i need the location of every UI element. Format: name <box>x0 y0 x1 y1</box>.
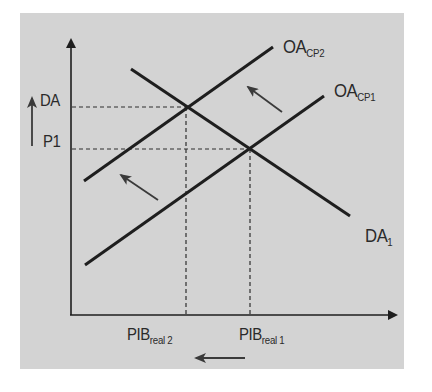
y-label-p1-text: P1 <box>43 132 60 151</box>
curve-label-oa-cp1-sub: CP1 <box>357 91 375 103</box>
x-label-pib-real-1-sub: real 1 <box>262 334 285 346</box>
y-label-p1: P1 <box>43 133 60 150</box>
diagram-stage: DA P1 OACP2 OACP1 DA1 PIBreal 2 PIBreal … <box>0 0 432 392</box>
curve-label-oa-cp2-sub: CP2 <box>306 47 324 59</box>
x-label-pib-real-1-main: PIB <box>239 325 262 344</box>
curve-label-oa-cp2: OACP2 <box>283 37 324 56</box>
curve-label-oa-cp1: OACP1 <box>334 81 375 100</box>
curve-label-da-1-main: DA <box>365 225 387 246</box>
x-label-pib-real-2: PIBreal 2 <box>127 326 172 343</box>
y-label-da-text: DA <box>40 91 60 110</box>
curve-label-da-1-sub: 1 <box>387 236 392 248</box>
y-label-da: DA <box>40 92 60 109</box>
curve-label-da-1: DA1 <box>365 226 392 245</box>
diagram-canvas <box>0 0 432 392</box>
x-label-pib-real-2-sub: real 2 <box>150 334 173 346</box>
curve-label-oa-cp1-main: OA <box>334 80 357 101</box>
x-label-pib-real-1: PIBreal 1 <box>239 326 284 343</box>
x-label-pib-real-2-main: PIB <box>127 325 150 344</box>
curve-label-oa-cp2-main: OA <box>283 36 306 57</box>
